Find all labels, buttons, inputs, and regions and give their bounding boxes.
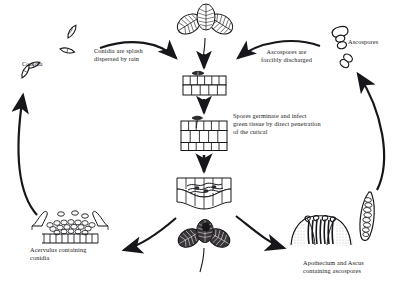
label-acervulus: Acervulus containing conidia bbox=[30, 246, 86, 262]
label-ascospores-discharged: Ascospores are forcibly discharged bbox=[261, 48, 312, 64]
ascus-structure bbox=[358, 191, 377, 241]
label-spores-germinate: Spores germinate and infect green tissue… bbox=[233, 112, 321, 137]
label-conidia-splash: Conidia are splash dispersed by rain bbox=[94, 47, 143, 63]
disease-cycle-diagram: Conidia Conidia are splash dispersed by … bbox=[0, 0, 408, 295]
arrow-acervulus-to-conidia bbox=[18, 95, 37, 215]
arrow-to-acervulus bbox=[124, 218, 176, 250]
label-ascospores: Ascospores bbox=[348, 38, 378, 46]
label-conidia: Conidia bbox=[22, 60, 43, 68]
arrow-to-apothecium bbox=[236, 216, 284, 248]
acervulus-structure bbox=[32, 211, 108, 243]
leaf-cross-section-penetration bbox=[181, 116, 227, 150]
leaf-cross-section-colonized bbox=[177, 178, 231, 209]
healthy-clover-leaf bbox=[174, 4, 237, 58]
apothecium-structure bbox=[288, 191, 377, 246]
label-apothecium: Apothecium and Ascus containing ascospor… bbox=[303, 259, 364, 275]
leaf-cross-section-spore-landing bbox=[183, 71, 226, 95]
arrow-ascus-to-ascospores bbox=[358, 74, 384, 190]
ascospore-spores bbox=[331, 25, 354, 69]
conidia-spores bbox=[20, 24, 78, 79]
diseased-clover-leaf bbox=[175, 220, 233, 273]
